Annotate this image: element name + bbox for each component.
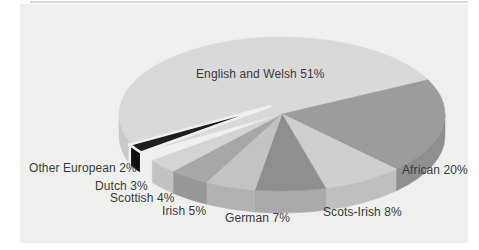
slice-label-scots-irish: Scots-Irish 8% — [323, 206, 402, 219]
slice-label-german: German 7% — [225, 212, 290, 225]
slice-label-english-and-welsh: English and Welsh 51% — [196, 68, 325, 81]
figure-page: English and Welsh 51%African 20%Scots-Ir… — [0, 0, 479, 250]
pie-side-german — [255, 188, 326, 213]
slice-label-scottish: Scottish 4% — [110, 192, 174, 205]
slice-label-irish: Irish 5% — [162, 205, 206, 218]
slice-label-dutch: Dutch 3% — [95, 180, 148, 193]
slice-label-african: African 20% — [402, 164, 468, 177]
slice-label-other-european: Other European 2% — [29, 162, 137, 175]
